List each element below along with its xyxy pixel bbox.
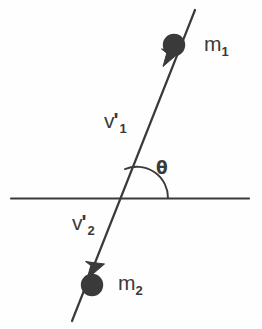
mass2-marker	[81, 274, 103, 296]
velocity1-label-prime: '	[114, 108, 119, 131]
velocity2-label-base: v	[72, 211, 83, 234]
velocity2-label: v'2	[72, 212, 95, 233]
velocity2-label-prime: '	[82, 210, 87, 233]
mass2-label-base: m	[118, 271, 136, 294]
mass1-label: m1	[204, 33, 229, 54]
velocity1-label-subscript: 1	[120, 121, 127, 136]
velocity2-label-subscript: 2	[88, 223, 95, 238]
velocity1-arrowhead	[162, 49, 181, 67]
velocity1-label-base: v	[104, 109, 115, 132]
angle-theta-label: θ	[156, 160, 168, 177]
mass2-label-subscript: 2	[136, 283, 143, 298]
velocity1-label: v'1	[104, 110, 127, 131]
mass1-label-subscript: 1	[222, 44, 229, 59]
collision-diagram: m1 m2 v'1 v'2 θ	[0, 0, 262, 329]
mass1-label-base: m	[204, 32, 222, 55]
mass2-label: m2	[118, 272, 143, 293]
